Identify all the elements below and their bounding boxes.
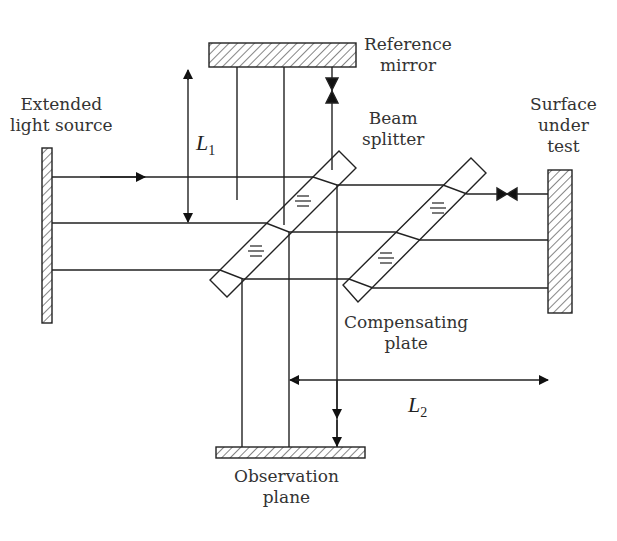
light-source-label: Extended light source bbox=[10, 94, 113, 136]
beam-splitter-label: Beam splitter bbox=[362, 108, 424, 150]
observation-plane bbox=[216, 447, 365, 458]
light-source bbox=[42, 148, 52, 323]
light-beams bbox=[52, 67, 548, 447]
surface-under-test bbox=[548, 170, 572, 313]
interferometer-diagram bbox=[0, 0, 617, 541]
compensating-plate-label: Compensating plate bbox=[344, 312, 468, 354]
l1-label: L1 bbox=[196, 130, 215, 159]
reference-mirror bbox=[209, 43, 356, 67]
surface-under-test-label: Surface under test bbox=[530, 94, 597, 157]
observation-plane-label: Observation plane bbox=[234, 466, 339, 508]
compensating-plate bbox=[343, 158, 486, 302]
l2-label: L2 bbox=[408, 392, 427, 421]
reference-mirror-label: Reference mirror bbox=[364, 34, 452, 76]
